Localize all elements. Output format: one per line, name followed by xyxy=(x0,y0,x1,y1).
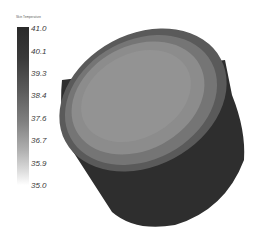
temperature-3d-plot xyxy=(0,0,260,242)
